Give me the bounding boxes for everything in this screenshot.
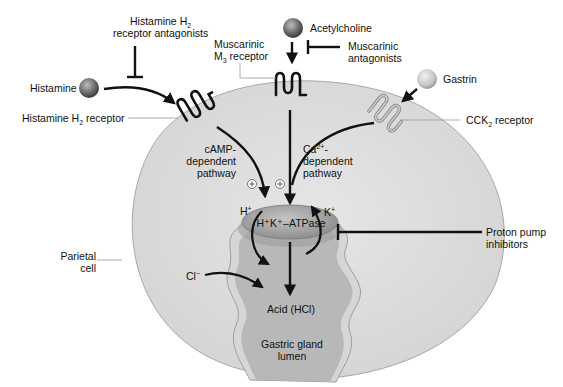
histamine-h2-receptor-label: Histamine H2 receptor <box>22 112 125 124</box>
gastrin-sphere-icon <box>417 69 437 89</box>
histamine-label: Histamine <box>30 82 77 94</box>
gastrin-label: Gastrin <box>443 73 477 85</box>
histamine-binding-arrow <box>104 87 174 103</box>
muscarinic-m3-receptor-label: Muscarinic M3 receptor <box>214 38 268 62</box>
ca-pathway-label: Ca2+- dependent pathway <box>303 143 353 179</box>
acetylcholine-sphere-icon <box>283 18 303 38</box>
h2-antagonist-block <box>127 46 143 77</box>
atpase-label: H⁺K⁺–ATPase <box>248 217 334 229</box>
histamine-sphere-icon <box>79 78 99 98</box>
muscarinic-antagonist-block <box>308 40 340 54</box>
h-ion-label: H+ <box>240 205 252 217</box>
acetylcholine-label: Acetylcholine <box>310 22 372 34</box>
gastric-gland-lumen-label: Gastric gland lumen <box>250 338 334 362</box>
ppi-label: Proton pump inhibitors <box>486 226 546 250</box>
acid-hcl-label: Acid (HCl) <box>255 303 327 315</box>
gastrin-binding-arrow <box>403 89 417 101</box>
camp-pathway-label: cAMP- dependent pathway <box>180 143 236 179</box>
h2-antagonist-label: Histamine H2 receptor antagonists <box>113 15 208 39</box>
cl-ion-label: Cl− <box>186 270 200 282</box>
cck2-receptor-label: CCK2 receptor <box>466 114 534 126</box>
parietal-cell-label: Parietal cell <box>60 250 96 274</box>
diagram-canvas <box>0 0 563 387</box>
muscarinic-antagonist-label: Muscarinic antagonists <box>348 40 402 64</box>
